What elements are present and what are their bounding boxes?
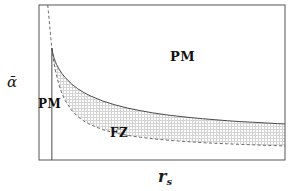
region-label-pm-upper: PM xyxy=(170,49,195,64)
region-label-fz: FZ xyxy=(110,126,128,140)
y-axis-label: ᾱ xyxy=(2,70,22,94)
plot-canvas xyxy=(0,0,293,191)
phase-diagram-figure: ᾱ rs PM PM FZ xyxy=(0,0,293,191)
x-axis-label-subscript: s xyxy=(166,176,172,187)
region-label-pm-left: PM xyxy=(38,97,61,111)
x-axis-label: rs xyxy=(140,167,190,189)
x-axis-label-base: r xyxy=(158,167,166,186)
